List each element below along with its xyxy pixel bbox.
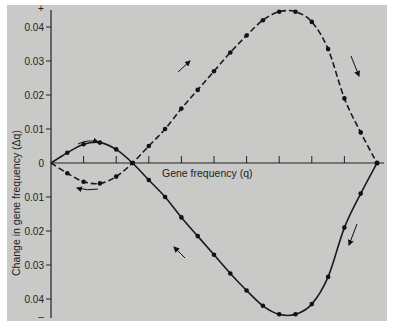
y-tick-label: 0.02	[25, 226, 45, 237]
data-point	[212, 253, 217, 258]
chart-svg: 0.040.030.020.0100.010.020.030.04+– Gene…	[0, 0, 393, 329]
data-point	[114, 174, 119, 179]
y-minus-marker: –	[38, 311, 44, 322]
direction-arrow-icon	[174, 247, 185, 258]
direction-arrow-icon	[351, 56, 359, 76]
data-point	[98, 181, 103, 186]
data-point	[310, 20, 315, 25]
y-tick-label: 0.04	[25, 294, 45, 305]
data-point	[358, 191, 363, 196]
data-point	[342, 96, 347, 101]
data-point	[277, 312, 282, 317]
data-point	[342, 225, 347, 230]
y-tick-label: 0.01	[25, 192, 45, 203]
y-tick-label: 0.03	[25, 260, 45, 271]
data-point	[147, 144, 152, 149]
y-tick-label: 0.02	[25, 90, 45, 101]
data-point	[244, 33, 249, 38]
y-plus-marker: +	[38, 3, 44, 14]
y-axis-label: Change in gene frequency (Δq)	[10, 130, 22, 276]
direction-arrow-icon	[178, 61, 190, 72]
data-point	[326, 47, 331, 52]
data-point	[326, 275, 331, 280]
data-point	[195, 88, 200, 93]
data-point	[358, 130, 363, 135]
data-point	[179, 215, 184, 220]
data-point	[130, 161, 135, 166]
data-point	[163, 127, 168, 132]
axes: 0.040.030.020.0100.010.020.030.04+–	[25, 3, 384, 322]
data-point	[65, 171, 70, 176]
y-tick-label: 0.03	[25, 56, 45, 67]
x-axis-label: Gene frequency (q)	[162, 167, 252, 179]
data-point	[261, 304, 266, 309]
data-point	[277, 9, 282, 14]
data-point	[114, 147, 119, 152]
data-point	[65, 151, 70, 156]
direction-arrows	[77, 56, 359, 258]
y-tick-label: 0.04	[25, 22, 45, 33]
data-point	[98, 140, 103, 145]
direction-arrow-icon	[349, 224, 357, 245]
y-tick-label: 0.01	[25, 124, 45, 135]
data-point	[293, 312, 298, 317]
y-tick-label: 0	[38, 158, 44, 169]
data-point	[244, 288, 249, 293]
data-point	[310, 302, 315, 307]
data-point	[261, 18, 266, 23]
data-point	[212, 69, 217, 74]
data-point	[228, 50, 233, 55]
equilibrium-point	[375, 161, 380, 166]
data-point	[81, 179, 86, 184]
data-point	[179, 106, 184, 111]
data-point	[163, 195, 168, 200]
data-point	[195, 234, 200, 239]
data-point	[147, 178, 152, 183]
direction-arrow-icon	[77, 188, 98, 190]
data-point	[293, 9, 298, 14]
data-point	[228, 271, 233, 276]
